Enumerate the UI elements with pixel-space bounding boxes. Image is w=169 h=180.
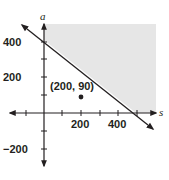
point-label: (200, 90) xyxy=(50,80,94,92)
x-tick-label-200: 200 xyxy=(71,118,89,130)
x-tick-label-400: 400 xyxy=(108,118,126,130)
data-point xyxy=(79,95,84,100)
y-tick-label-neg200: −200 xyxy=(3,143,28,155)
y-tick-label-400: 400 xyxy=(3,36,21,48)
y-tick-label-200: 200 xyxy=(3,71,21,83)
shaded-region xyxy=(44,24,156,113)
graph: a s 400 200 −200 200 400 (200, 90) xyxy=(0,0,169,180)
y-axis-label: a xyxy=(40,10,46,22)
x-axis-label: s xyxy=(159,106,163,118)
